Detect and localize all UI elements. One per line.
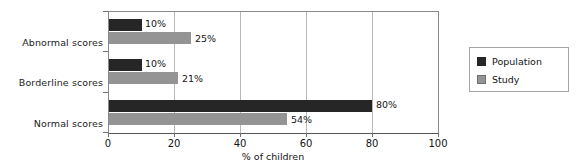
population-swatch-icon [477,57,486,66]
bar-population-abnormal-scores [109,19,142,31]
x-axis-title: % of children [108,151,438,162]
legend-item-study: Study [477,71,568,88]
x-tick-mark-20 [174,133,175,137]
bar-value-population-abnormal-scores: 10% [145,18,166,30]
x-tick-label-80: 80 [366,138,379,149]
bar-value-population-borderline-scores: 10% [145,58,166,70]
legend-label-study: Study [492,74,519,85]
x-tick-mark-100 [438,133,439,137]
x-tick-label-100: 100 [428,138,447,149]
y-label-borderline-scores: Borderline scores [3,77,103,88]
y-tick-2 [103,92,108,93]
bar-study-borderline-scores [109,72,178,84]
x-tick-label-20: 20 [168,138,181,149]
y-tick-top [103,11,108,12]
legend-label-population: Population [492,56,542,67]
bar-value-study-abnormal-scores: 25% [195,33,216,45]
bar-value-study-normal-scores: 54% [291,114,312,126]
y-tick-1 [103,51,108,52]
bar-population-borderline-scores [109,59,142,71]
bar-study-normal-scores [109,113,287,125]
y-axis-labels: Abnormal scores Borderline scores Normal… [0,11,103,132]
x-tick-mark-0 [108,133,109,137]
x-tick-label-0: 0 [105,138,111,149]
legend-item-population: Population [477,53,568,70]
x-tick-mark-60 [306,133,307,137]
x-tick-mark-40 [240,133,241,137]
bar-value-population-normal-scores: 80% [376,99,397,111]
chart-legend: Population Study [469,47,569,92]
x-tick-label-40: 40 [234,138,247,149]
bar-population-normal-scores [109,100,372,112]
study-swatch-icon [477,75,486,84]
x-tick-label-60: 60 [300,138,313,149]
bar-value-study-borderline-scores: 21% [182,73,203,85]
bar-study-abnormal-scores [109,32,191,44]
y-label-abnormal-scores: Abnormal scores [3,37,103,48]
gridline-80 [372,12,373,133]
y-label-normal-scores: Normal scores [3,118,103,129]
bar-chart: Abnormal scores Borderline scores Normal… [0,0,581,167]
x-tick-mark-80 [372,133,373,137]
